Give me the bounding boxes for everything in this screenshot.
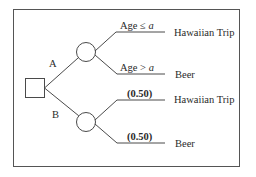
decision-node-square (26, 79, 45, 98)
branch-a-label: A (49, 58, 57, 69)
condition-age-gt-a: Age > a (120, 62, 154, 73)
result-a-2: Beer (175, 69, 195, 80)
branch-a-outcome-1-line (95, 32, 165, 51)
decision-tree-diagram: A B Age ≤ a Age > a (0.50) (0.50) Hawaii… (0, 0, 256, 177)
result-b-2: Beer (175, 138, 195, 149)
branch-b-line (45, 88, 80, 116)
probability-label-2: (0.50) (127, 131, 153, 143)
chance-node-b-circle (77, 113, 96, 132)
branch-b-label: B (52, 109, 59, 120)
branch-b-outcome-1-line (95, 100, 165, 120)
result-b-1: Hawaiian Trip (174, 94, 234, 105)
probability-label-1: (0.50) (127, 88, 153, 100)
chance-node-a-circle (77, 43, 96, 62)
condition-age-le-a: Age ≤ a (120, 20, 154, 31)
result-a-1: Hawaiian Trip (174, 27, 234, 38)
